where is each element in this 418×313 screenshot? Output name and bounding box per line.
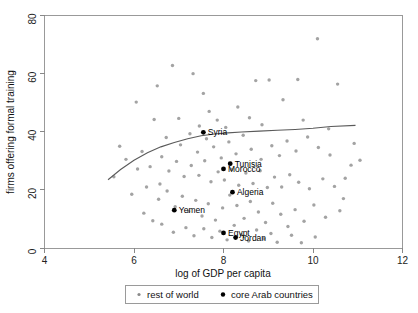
scatter-point [285,139,288,142]
scatter-point-syria [201,130,206,135]
scatter-point [242,217,245,220]
scatter-points-rest-of-world [112,37,362,244]
scatter-point [264,221,267,224]
scatter-point [182,175,185,178]
scatter-point [336,82,339,85]
scatter-point [160,155,163,158]
scatter-point [267,78,270,81]
scatter-point [196,150,199,153]
scatter-point [156,84,159,87]
scatter-point [184,226,187,229]
scatter-point [165,136,168,139]
scatter-point [270,144,273,147]
scatter-point [207,110,210,113]
scatter-point [286,225,289,228]
point-label-syria: Syria [208,127,228,137]
scatter-point [177,117,180,120]
scatter-point [233,224,236,227]
scatter-point [297,181,300,184]
scatter-point [293,208,296,211]
scatter-point [210,236,213,239]
point-label-yemen: Yemen [179,205,205,215]
scatter-point [271,202,274,205]
scatter-point-morocco [221,167,226,172]
scatter-point [190,164,193,167]
x-tick-label: 6 [131,255,137,266]
scatter-point [312,203,315,206]
x-tick-label: 10 [307,255,319,266]
scatter-point [157,197,160,200]
y-tick-label: 60 [27,71,38,83]
scatter-point [249,200,252,203]
scatter-plot-figure: 020406080 4681012 SyriaTunisiaMoroccoAlg… [0,0,418,313]
point-label-algeria: Algeria [237,187,264,197]
scatter-point [223,178,226,181]
scatter-point [269,232,272,235]
scatter-point [145,185,148,188]
scatter-point [281,98,284,101]
scatter-point [241,134,244,137]
scatter-point [148,165,151,168]
x-tick-label: 12 [397,255,409,266]
legend-marker-rest-of-world [137,293,140,296]
scatter-point [327,127,330,130]
scatter-point [197,174,200,177]
scatter-point [288,173,291,176]
legend-marker-core-arab [221,292,225,296]
scatter-point [328,153,331,156]
scatter-point [181,195,184,198]
scatter-point [142,211,145,214]
scatter-point [358,159,361,162]
scatter-point [179,143,182,146]
x-axis-title: log of GDP per capita [175,268,271,279]
scatter-point-egypt [221,230,226,235]
scatter-point [333,185,336,188]
scatter-point [160,222,163,225]
scatter-point [266,186,269,189]
scatter-point [136,167,139,170]
scatter-point [273,175,276,178]
scatter-point [203,159,206,162]
scatter-point [278,154,281,157]
scatter-point [234,152,237,155]
scatter-point [314,235,317,238]
x-tick-label: 8 [221,255,227,266]
scatter-point [344,177,347,180]
scatter-point [260,123,263,126]
x-tick-label: 4 [42,255,48,266]
scatter-point [294,149,297,152]
y-tick-label: 40 [27,129,38,141]
scatter-point [308,187,311,190]
scatter-point [321,177,324,180]
scatter-point [216,118,219,121]
scatter-point [205,137,208,140]
scatter-point [220,156,223,159]
scatter-point [194,199,197,202]
scatter-point [317,146,320,149]
scatter-point [140,150,143,153]
scatter-point [130,193,133,196]
scatter-point [198,124,201,127]
scatter-point [151,219,154,222]
scatter-point [124,158,127,161]
scatter-point [352,142,355,145]
y-tick-label: 20 [27,187,38,199]
scatter-point [165,189,168,192]
scatter-point [290,234,293,237]
scatter-point [152,118,155,121]
scatter-point [257,210,260,213]
scatter-point-yemen [172,208,177,213]
scatter-point [118,145,121,148]
scatter-point [338,209,341,212]
scatter-point-algeria [230,190,235,195]
chart-legend: rest of world core Arab countries [126,286,319,304]
legend-label-core-arab: core Arab countries [231,289,313,300]
scatter-point [296,78,299,81]
scatter-point [280,185,283,188]
scatter-point [191,72,194,75]
scatter-points-core-arab [172,130,238,240]
scatter-point [171,64,174,67]
scatter-point [202,92,205,95]
scatter-point [214,218,217,221]
y-tick-label: 80 [27,13,38,25]
